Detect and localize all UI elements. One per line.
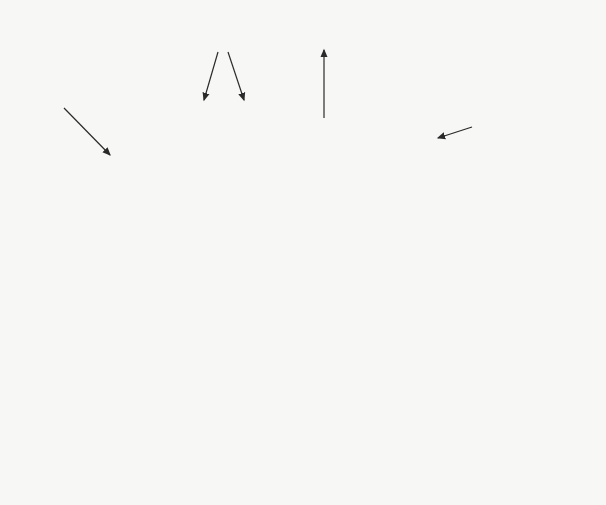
sp2-arrow-right — [228, 52, 244, 100]
basal-plane-arrow — [64, 108, 110, 155]
annotation-arrows — [64, 50, 472, 155]
lattice-drawing — [0, 0, 606, 505]
sp2-arrow-left — [204, 52, 218, 100]
graphite-structure-diagram — [0, 0, 606, 505]
carbon-atom-arrow — [438, 127, 472, 138]
